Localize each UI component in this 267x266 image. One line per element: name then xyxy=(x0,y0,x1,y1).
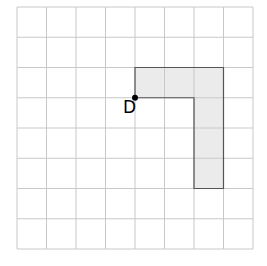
shaded-cell xyxy=(165,68,195,98)
shaded-cell xyxy=(194,158,224,188)
shaded-cell xyxy=(194,98,224,128)
point-label-d: D xyxy=(123,99,136,116)
shaded-cell xyxy=(194,128,224,158)
shaded-cell xyxy=(135,68,165,98)
shaded-cell xyxy=(194,68,224,98)
grid-diagram xyxy=(0,0,267,266)
grid-lines xyxy=(17,7,253,249)
